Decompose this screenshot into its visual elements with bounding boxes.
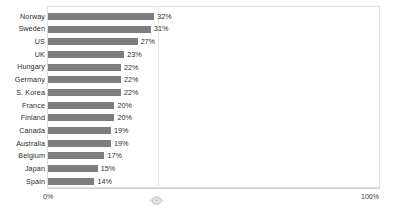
- category-label: Belgium: [0, 152, 45, 159]
- category-label: Norway: [0, 13, 45, 20]
- category-label: France: [0, 102, 45, 109]
- bar-track: 32%: [48, 13, 380, 20]
- bar: [48, 114, 114, 121]
- bar-row: Spain14%: [0, 175, 393, 188]
- category-label: UK: [0, 51, 45, 58]
- bar-value-label: 22%: [124, 76, 138, 83]
- bar-value-label: 23%: [127, 51, 141, 58]
- bar-row: UK23%: [0, 48, 393, 61]
- bar: [48, 127, 111, 134]
- bar: [48, 26, 151, 33]
- bar-value-label: 20%: [117, 114, 131, 121]
- bar-row: Canada19%: [0, 124, 393, 137]
- category-label: Japan: [0, 165, 45, 172]
- bar-row: France20%: [0, 99, 393, 112]
- bar: [48, 140, 111, 147]
- category-label: Hungary: [0, 63, 45, 70]
- bar-track: 22%: [48, 76, 380, 83]
- category-label: Spain: [0, 178, 45, 185]
- bar-track: 14%: [48, 178, 380, 185]
- bar-value-label: 19%: [114, 127, 128, 134]
- bar-row: Norway32%: [0, 10, 393, 23]
- bar-track: 31%: [48, 26, 380, 33]
- x-axis-tick-label-100: 100%: [361, 193, 379, 200]
- bar-track: 22%: [48, 89, 380, 96]
- bar: [48, 64, 121, 71]
- bar-value-label: 15%: [101, 165, 115, 172]
- bar-track: 19%: [48, 140, 380, 147]
- category-label: Canada: [0, 127, 45, 134]
- bar-row: Hungary22%: [0, 61, 393, 74]
- bar-value-label: 20%: [117, 102, 131, 109]
- bar-row: US27%: [0, 35, 393, 48]
- bar-track: 17%: [48, 152, 380, 159]
- bar: [48, 76, 121, 83]
- bar-track: 20%: [48, 114, 380, 121]
- bar-track: 15%: [48, 165, 380, 172]
- bar: [48, 102, 114, 109]
- bar-row: Sweden31%: [0, 23, 393, 36]
- bar-track: 22%: [48, 64, 380, 71]
- bar: [48, 178, 94, 185]
- bar-value-label: 31%: [154, 25, 168, 32]
- bar-value-label: 14%: [97, 178, 111, 185]
- x-axis-tick-label-0: 0%: [43, 193, 53, 200]
- bar-row: Japan15%: [0, 162, 393, 175]
- bar-row: Germany22%: [0, 73, 393, 86]
- category-label: Finland: [0, 114, 45, 121]
- bar-value-label: 19%: [114, 140, 128, 147]
- bar-chart: Norway32%Sweden31%US27%UK23%Hungary22%Ge…: [0, 0, 393, 217]
- cursor-artifact-icon: [148, 195, 165, 206]
- category-label: S. Korea: [0, 89, 45, 96]
- bar: [48, 165, 98, 172]
- bar-value-label: 32%: [157, 13, 171, 20]
- bar: [48, 89, 121, 96]
- bar: [48, 152, 104, 159]
- bar-track: 23%: [48, 51, 380, 58]
- bar-row: Australia19%: [0, 137, 393, 150]
- bar: [48, 38, 138, 45]
- bar-rows: Norway32%Sweden31%US27%UK23%Hungary22%Ge…: [0, 10, 393, 188]
- category-label: Sweden: [0, 25, 45, 32]
- bar-value-label: 27%: [141, 38, 155, 45]
- category-label: US: [0, 38, 45, 45]
- bar: [48, 13, 154, 20]
- bar-track: 27%: [48, 38, 380, 45]
- bar-value-label: 22%: [124, 89, 138, 96]
- bar-row: Belgium17%: [0, 150, 393, 163]
- bar-row: S. Korea22%: [0, 86, 393, 99]
- bar-track: 19%: [48, 127, 380, 134]
- bar-track: 20%: [48, 102, 380, 109]
- bar-value-label: 22%: [124, 64, 138, 71]
- bar: [48, 51, 124, 58]
- category-label: Germany: [0, 76, 45, 83]
- x-axis-baseline: [47, 188, 380, 189]
- category-label: Australia: [0, 140, 45, 147]
- bar-row: Finland20%: [0, 112, 393, 125]
- bar-value-label: 17%: [107, 152, 121, 159]
